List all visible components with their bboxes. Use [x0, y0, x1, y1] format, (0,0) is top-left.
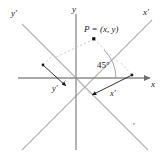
x-prime-axis-label: x′ — [143, 8, 149, 17]
y-prime-axis-label: y′ — [11, 9, 17, 18]
x-prime-axis-line — [22, 20, 152, 150]
x-prime-measure-endpoint — [131, 74, 134, 77]
dashed-projection-to-x-prime — [94, 39, 118, 62]
angle-label: 45° — [97, 61, 110, 70]
y-prime-measure-endpoint — [42, 64, 45, 67]
x-prime-segment-label: x′ — [110, 89, 116, 98]
point-p-label: P = (x, y) — [84, 25, 118, 34]
y-prime-segment-label: y′ — [52, 84, 58, 93]
dashed-guide-x-prime-offset — [121, 63, 131, 74]
dashed-guide-origin-offset-2 — [62, 74, 72, 84]
stray-mark — [133, 123, 135, 125]
x-axis-label: x — [151, 80, 155, 89]
point-p-marker — [92, 37, 95, 40]
dashed-guide-y-prime-offset — [44, 54, 54, 64]
rotated-axes-diagram: y x x′ y′ P = (x, y) 45° x′ y′ — [0, 0, 165, 157]
y-axis-label: y — [72, 5, 76, 14]
diagram-canvas — [0, 0, 165, 157]
dashed-projection-to-y-prime — [56, 39, 94, 57]
